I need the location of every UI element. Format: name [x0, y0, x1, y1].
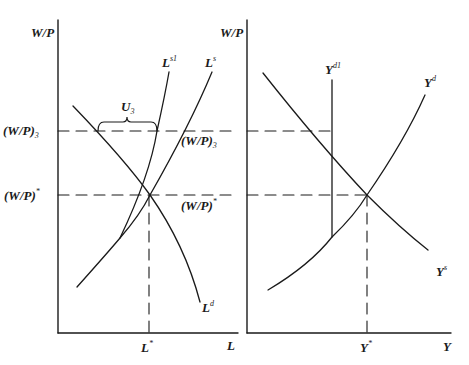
u3-brace-label: U3: [121, 100, 134, 116]
lstar-tick-label-sup: *: [149, 339, 153, 348]
yd1-curve-label-text: Y: [325, 62, 333, 77]
u3-brace-label-sub: 3: [130, 107, 134, 116]
ls1-curve-label: Ls1: [162, 55, 177, 69]
u3-brace-label-text: U: [121, 99, 130, 114]
w3-tick-label-right-sub: 3: [213, 141, 217, 150]
right-x-axis-label: Y: [443, 340, 451, 353]
wstar-tick-label-left-text: (W/P): [4, 188, 36, 203]
left-y-axis-label-text: W/P: [31, 25, 54, 40]
yd-curve: [268, 95, 425, 290]
ld-curve-label: Ld: [202, 300, 214, 314]
wstar-tick-label-right: (W/P)*: [181, 198, 217, 212]
ys-curve-label: Ys: [436, 264, 447, 278]
ls1-curve-label-sup: s1: [170, 54, 177, 63]
ystar-tick-label: Y*: [360, 340, 372, 354]
ls-curve-label-sup: s: [213, 54, 216, 63]
wstar-tick-label-left-sup: *: [36, 187, 40, 196]
right-y-axis-label-text: W/P: [220, 25, 243, 40]
w3-tick-label-right: (W/P)3: [181, 134, 217, 150]
ys-curve-label-text: Y: [436, 264, 444, 279]
ls1-curve-label-text: L: [162, 55, 170, 70]
yd-curve-label-text: Y: [424, 75, 432, 90]
ld-curve-label-sup: d: [210, 299, 214, 308]
yd-curve-label: Yd: [424, 75, 436, 89]
lstar-tick-label-text: L: [141, 340, 149, 355]
ystar-tick-label-sup: *: [368, 339, 372, 348]
w3-tick-label-left-text: (W/P): [3, 123, 35, 138]
w3-tick-label-left-sub: 3: [35, 131, 39, 140]
yd1-curve-label: Yd1: [325, 62, 341, 76]
left-x-axis-label-text: L: [227, 338, 235, 353]
right-y-axis-label: W/P: [220, 26, 243, 39]
wstar-tick-label-right-sup: *: [213, 197, 217, 206]
ls-curve-label: Ls: [205, 55, 216, 69]
yd-curve-label-sup: d: [432, 74, 436, 83]
ld-curve-label-text: L: [202, 300, 210, 315]
yd1-curve-label-sup: d1: [333, 61, 341, 70]
w3-tick-label-right-text: (W/P): [181, 133, 213, 148]
left-y-axis-label: W/P: [31, 26, 54, 39]
u3-brace: [98, 117, 157, 131]
ls-curve-label-text: L: [205, 55, 213, 70]
wstar-tick-label-right-text: (W/P): [181, 198, 213, 213]
left-x-axis-label: L: [227, 339, 235, 352]
diagram-canvas: [0, 0, 469, 365]
ystar-tick-label-text: Y: [360, 340, 368, 355]
right-x-axis-label-text: Y: [443, 339, 451, 354]
labor-output-diagram: W/P L (W/P)3 (W/P)* L* Ls1 Ls Ld U3 W/P …: [0, 0, 469, 365]
ys-curve-label-sup: s: [444, 263, 447, 272]
wstar-tick-label-left: (W/P)*: [4, 188, 40, 202]
lstar-tick-label: L*: [141, 340, 153, 354]
w3-tick-label-left: (W/P)3: [3, 124, 39, 140]
